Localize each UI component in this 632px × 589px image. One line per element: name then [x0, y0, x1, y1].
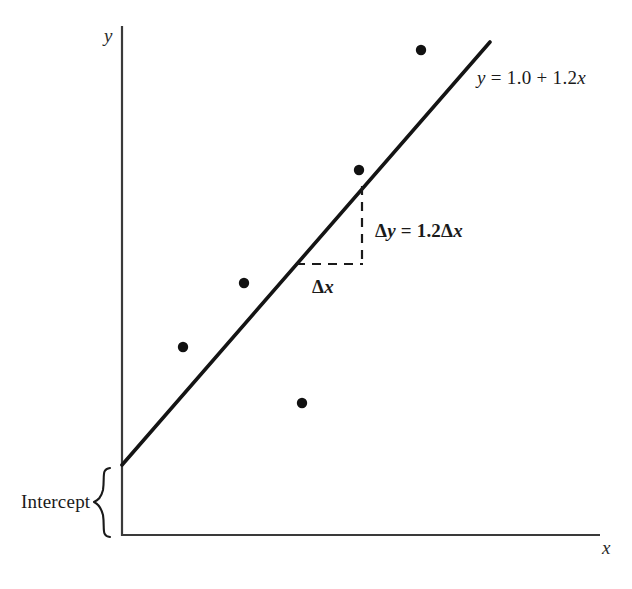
delta-y-label: Δy = 1.2Δx — [375, 221, 463, 240]
scatter-point — [416, 45, 426, 55]
intercept-label: Intercept — [21, 492, 90, 511]
y-axis-label: y — [104, 26, 112, 45]
scatter-point — [297, 398, 307, 408]
x-axis-label: x — [602, 538, 610, 557]
scatter-point — [239, 278, 249, 288]
regression-equation-label: y = 1.0 + 1.2x — [477, 68, 586, 87]
delta-x-label: Δx — [312, 277, 334, 296]
scatter-point — [354, 165, 364, 175]
intercept-brace-icon — [94, 468, 110, 537]
regression-figure: y x y = 1.0 + 1.2x Δy = 1.2Δx Δx Interce… — [0, 0, 632, 589]
scatter-point — [178, 342, 188, 352]
